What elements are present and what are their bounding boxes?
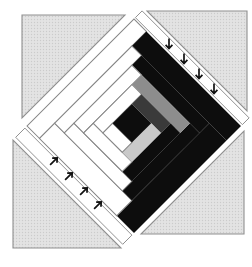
quilt-diagram-canvas <box>0 0 252 267</box>
quilt-diagram <box>0 0 252 267</box>
